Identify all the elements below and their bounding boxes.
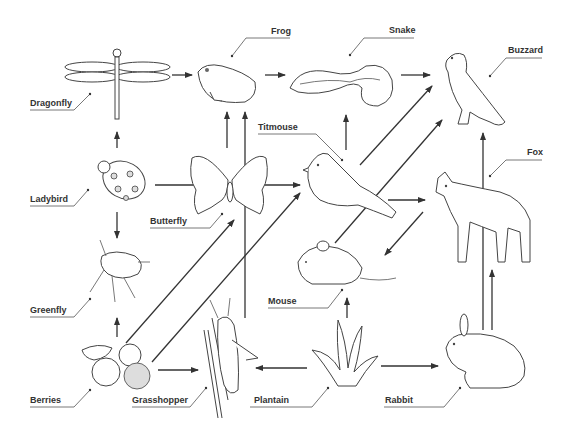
arrow-fox-mouse bbox=[385, 212, 423, 255]
buzzard-illustration bbox=[446, 53, 505, 125]
label-rabbit: Rabbit bbox=[385, 395, 413, 405]
rabbit-illustration bbox=[446, 314, 525, 388]
label-berries: Berries bbox=[30, 395, 61, 405]
berries-illustration bbox=[82, 344, 150, 389]
label-greenfly: Greenfly bbox=[30, 305, 67, 315]
snake-illustration bbox=[290, 65, 393, 106]
label-plantain: Plantain bbox=[254, 395, 289, 405]
food-web-canvas bbox=[0, 0, 568, 440]
mouse-illustration bbox=[298, 241, 396, 284]
grasshopper-illustration bbox=[204, 298, 258, 418]
label-fox: Fox bbox=[527, 147, 543, 157]
titmouse-illustration bbox=[303, 153, 396, 218]
butterfly-illustration bbox=[191, 156, 268, 214]
label-titmouse: Titmouse bbox=[258, 122, 298, 132]
food-web-diagram: Dragonfly Frog Snake Buzzard Ladybird Bu… bbox=[0, 0, 568, 440]
dragonfly-illustration bbox=[65, 49, 170, 119]
label-butterfly: Butterfly bbox=[150, 216, 187, 226]
label-buzzard: Buzzard bbox=[508, 45, 543, 55]
greenfly-illustration bbox=[90, 240, 150, 302]
label-ladybird: Ladybird bbox=[30, 194, 68, 204]
plantain-illustration bbox=[312, 320, 378, 386]
label-dragonfly: Dragonfly bbox=[30, 98, 72, 108]
label-frog: Frog bbox=[271, 26, 291, 36]
ladybird-illustration bbox=[96, 153, 152, 206]
label-snake: Snake bbox=[389, 25, 416, 35]
label-grasshopper: Grasshopper bbox=[132, 395, 188, 405]
frog-illustration bbox=[198, 65, 256, 103]
label-mouse: Mouse bbox=[268, 296, 297, 306]
